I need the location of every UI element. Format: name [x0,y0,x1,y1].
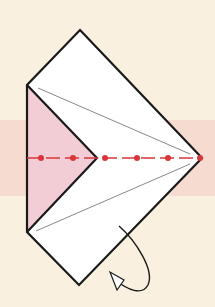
diagram-canvas [0,0,215,307]
origami-diagram [0,0,215,307]
arrow-head-icon [110,272,124,290]
